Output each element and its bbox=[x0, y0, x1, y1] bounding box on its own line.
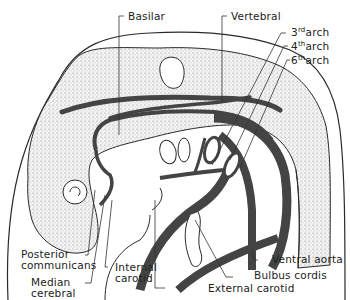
label-internal-carotid-line2: carotid bbox=[115, 273, 153, 284]
label-bulbus-cordis: Bulbus cordis bbox=[254, 270, 327, 281]
leader-internal-carotid bbox=[105, 200, 112, 267]
label-basilar: Basilar bbox=[128, 11, 165, 22]
optic-cup bbox=[63, 180, 87, 204]
label-arch-3rd: 3rdarch bbox=[291, 27, 329, 38]
pharyngeal-pouch-2 bbox=[178, 138, 190, 162]
label-vertebral: Vertebral bbox=[231, 11, 281, 22]
label-arch-4th: 4tharch bbox=[291, 41, 329, 52]
label-external-carotid: External carotid bbox=[208, 283, 295, 294]
label-ventral-aorta: Ventral aorta bbox=[272, 254, 343, 265]
aortic-arch-diagram: Basilar Vertebral 3rdarch 4tharch 6tharc… bbox=[0, 0, 350, 300]
heart-tube bbox=[185, 212, 201, 267]
label-median-cerebral-line2: cerebral bbox=[31, 288, 76, 299]
label-arch-6th: 6tharch bbox=[291, 55, 329, 66]
label-posterior-communicans-line2: communicans bbox=[21, 260, 96, 271]
